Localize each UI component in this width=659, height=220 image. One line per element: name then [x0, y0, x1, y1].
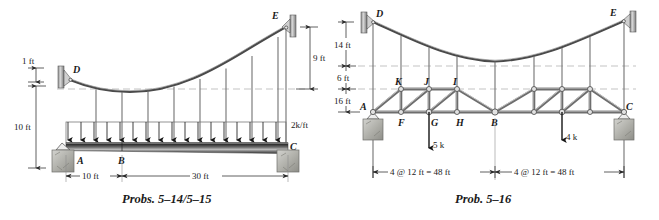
- label-distributed-load: 2k/ft: [291, 120, 308, 130]
- label-load-5k: 5 k: [433, 140, 445, 150]
- label-dim-30ft-span: 30 ft: [192, 171, 209, 181]
- label-B-right: B: [490, 117, 498, 128]
- caption-probs-5-14-5-15: Probs. 5–14/5–15: [122, 192, 212, 206]
- textbook-figure-sheet: D E 2k/ft: [0, 0, 659, 220]
- label-dim-9ft: 9 ft: [313, 53, 326, 63]
- label-span-left-right-fig: 4 @ 12 ft = 48 ft: [390, 167, 451, 177]
- label-E-right: E: [609, 7, 617, 18]
- label-K: K: [394, 76, 403, 87]
- label-dim-16ft: 16 ft: [334, 96, 351, 106]
- label-dim-14ft: 14 ft: [334, 40, 351, 50]
- label-C-right: C: [626, 101, 633, 112]
- label-A-left: A: [76, 155, 84, 166]
- label-F: F: [397, 117, 405, 128]
- label-dim-6ft: 6 ft: [337, 73, 350, 83]
- label-A-right: A: [359, 101, 367, 112]
- label-B-left: B: [117, 155, 125, 166]
- label-dim-10ft: 10 ft: [14, 122, 31, 132]
- label-J: J: [423, 76, 430, 87]
- label-G: G: [431, 117, 439, 128]
- label-E-left: E: [271, 10, 279, 21]
- label-span-right-right-fig: 4 @ 12 ft = 48 ft: [514, 167, 575, 177]
- label-D-left: D: [72, 64, 80, 75]
- caption-prob-5-16: Prob. 5–16: [455, 192, 512, 206]
- label-load-4k: 4 k: [566, 132, 578, 142]
- label-dim-10ft-span: 10 ft: [82, 171, 99, 181]
- label-H: H: [455, 117, 465, 128]
- label-D-right: D: [375, 8, 383, 19]
- label-dim-1ft: 1 ft: [22, 56, 35, 66]
- figure-canvas: D E 2k/ft: [0, 0, 659, 220]
